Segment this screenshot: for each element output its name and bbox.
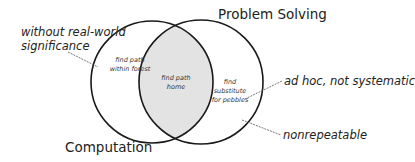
region-text-line: within forest bbox=[100, 65, 160, 74]
annotation-nonrepeatable: nonrepeatable bbox=[283, 128, 367, 142]
region-text-line: find path bbox=[100, 56, 160, 65]
annotation-without-significance: without real-world significance bbox=[21, 25, 126, 54]
region-text-line: for pebbles bbox=[207, 96, 253, 105]
region-label-problem-solving-only: find substitute for pebbles bbox=[207, 78, 253, 104]
set-title-problem-solving: Problem Solving bbox=[218, 8, 327, 22]
leader-line-without-significance bbox=[68, 52, 98, 67]
annotation-line: significance bbox=[21, 39, 126, 53]
region-label-intersection: find path home bbox=[150, 74, 202, 92]
region-text-line: home bbox=[150, 83, 202, 92]
region-label-computation-only: find path within forest bbox=[100, 56, 160, 74]
region-text-line: find bbox=[207, 78, 253, 87]
leader-line-nonrepeatable bbox=[242, 120, 281, 135]
set-title-computation: Computation bbox=[65, 141, 152, 155]
annotation-line: without real-world bbox=[21, 25, 126, 39]
region-text-line: find path bbox=[150, 74, 202, 83]
annotation-ad-hoc: ad hoc, not systematic bbox=[284, 74, 415, 88]
region-text-line: substitute bbox=[207, 87, 253, 96]
